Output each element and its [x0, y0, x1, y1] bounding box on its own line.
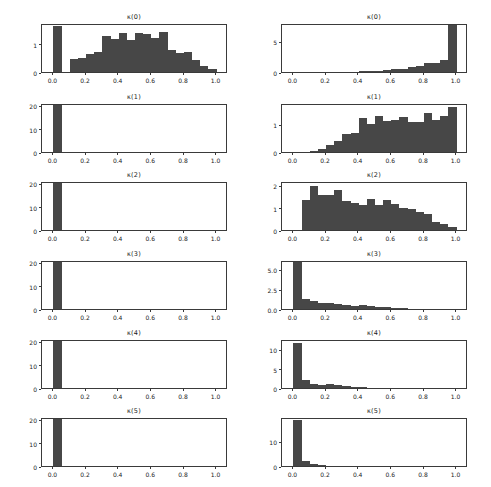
histogram-bar	[342, 134, 350, 152]
x-tick-mark	[325, 389, 326, 391]
x-tick-label: 0.6	[386, 314, 396, 321]
x-tick-label: 0.8	[178, 471, 188, 478]
x-tick-mark	[117, 73, 118, 75]
x-tick-mark	[357, 153, 358, 155]
x-tick-mark	[85, 73, 86, 75]
histogram-bar	[351, 306, 359, 309]
x-tick-label: 0.4	[353, 77, 363, 84]
x-tick-label: 0.8	[178, 157, 188, 164]
histogram-bar	[391, 120, 399, 152]
y-tick-mark	[39, 44, 41, 45]
x-tick-label: 0.8	[178, 314, 188, 321]
subplot-right-row-2: κ(1)010.00.20.40.60.81.0	[281, 93, 467, 169]
histogram-bar	[119, 33, 127, 72]
histogram-bars	[42, 341, 226, 388]
x-tick-label: 0.4	[353, 235, 363, 242]
subplot-title: κ(2)	[41, 171, 227, 179]
histogram-bar	[399, 208, 407, 230]
subplot-title: κ(4)	[281, 329, 467, 337]
y-tick-label: 0	[247, 150, 277, 157]
subplot-left-row-2: κ(1)010200.00.20.40.60.81.0	[41, 93, 227, 169]
x-tick-label: 0.0	[288, 77, 298, 84]
y-tick-mark	[39, 106, 41, 107]
y-tick-mark	[279, 208, 281, 209]
x-tick-mark	[390, 73, 391, 75]
histogram-bar	[334, 304, 342, 309]
histogram-bar	[53, 341, 61, 388]
x-tick-label: 0.0	[288, 235, 298, 242]
plot-area	[281, 418, 467, 467]
subplot-left-row-1: κ(0)010.00.20.40.60.81.0	[41, 13, 227, 89]
x-tick-mark	[423, 467, 424, 469]
x-tick-mark	[215, 231, 216, 233]
x-tick-mark	[117, 389, 118, 391]
histogram-bar	[318, 385, 326, 388]
x-tick-label: 1.0	[451, 157, 461, 164]
histogram-bar	[111, 39, 119, 72]
x-tick-label: 0.6	[386, 77, 396, 84]
histogram-bar	[168, 50, 176, 72]
x-tick-label: 0.2	[320, 157, 330, 164]
x-tick-mark	[215, 389, 216, 391]
y-tick-label: 10	[7, 126, 37, 133]
histogram-bar	[53, 26, 61, 72]
histogram-bars	[42, 419, 226, 466]
x-tick-mark	[292, 153, 293, 155]
x-tick-mark	[150, 310, 151, 312]
histogram-bar	[143, 34, 151, 72]
x-tick-mark	[455, 231, 456, 233]
histogram-bar	[151, 38, 159, 72]
subplot-title: κ(5)	[41, 407, 227, 415]
histogram-bar	[159, 32, 167, 72]
histogram-bar	[200, 66, 208, 72]
y-tick-label: 5	[247, 39, 277, 46]
histogram-bar	[326, 195, 334, 231]
subplot-right-row-6: κ(5)0100.00.20.40.60.81.0	[281, 407, 467, 483]
histogram-bars	[282, 183, 466, 230]
x-tick-label: 0.8	[178, 77, 188, 84]
x-tick-label: 1.0	[211, 157, 221, 164]
x-tick-mark	[390, 231, 391, 233]
y-tick-label: 0	[7, 70, 37, 77]
x-tick-label: 0.0	[48, 471, 58, 478]
y-tick-mark	[39, 389, 41, 390]
x-tick-label: 0.8	[418, 77, 428, 84]
plot-area	[41, 261, 227, 310]
histogram-bar	[53, 419, 61, 466]
x-tick-label: 0.6	[146, 235, 156, 242]
x-tick-label: 1.0	[451, 77, 461, 84]
histogram-bar	[359, 305, 367, 309]
y-tick-label: 10	[7, 283, 37, 290]
histogram-bar	[399, 69, 407, 72]
x-tick-mark	[52, 231, 53, 233]
x-tick-mark	[85, 467, 86, 469]
x-tick-mark	[325, 153, 326, 155]
histogram-bar	[375, 116, 383, 152]
histogram-bar	[53, 105, 61, 152]
x-tick-label: 0.0	[48, 235, 58, 242]
x-tick-mark	[357, 389, 358, 391]
plot-area	[281, 104, 467, 153]
subplot-right-row-1: κ(0)050.00.20.40.60.81.0	[281, 13, 467, 89]
histogram-bar	[408, 122, 416, 152]
histogram-bar	[102, 36, 110, 72]
x-tick-label: 0.8	[418, 471, 428, 478]
histogram-bar	[326, 145, 334, 152]
histogram-bar	[302, 299, 310, 309]
x-tick-mark	[357, 231, 358, 233]
histogram-bar	[391, 204, 399, 230]
histogram-bar	[448, 25, 456, 72]
y-tick-label: 2.5	[247, 287, 277, 294]
y-tick-mark	[279, 153, 281, 154]
histogram-bar	[424, 63, 432, 72]
x-tick-mark	[325, 310, 326, 312]
histogram-bars	[42, 25, 226, 72]
histogram-bar	[293, 420, 301, 466]
y-tick-label: 2	[247, 183, 277, 190]
x-tick-label: 0.8	[178, 235, 188, 242]
y-tick-label: 10	[247, 347, 277, 354]
histogram-bar	[302, 461, 310, 466]
x-tick-label: 0.6	[146, 77, 156, 84]
x-tick-label: 0.6	[386, 471, 396, 478]
histogram-bar	[342, 201, 350, 230]
